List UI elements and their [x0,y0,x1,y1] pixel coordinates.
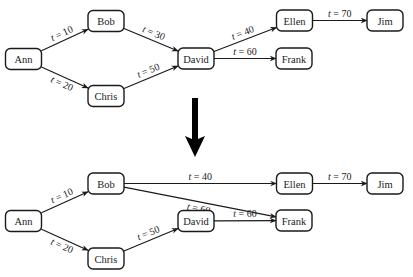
node-frank: Frank [276,210,312,231]
edge-label-bob-david: t = 30 [141,23,167,42]
node-david: David [178,211,214,232]
edge-label-op: = [331,171,342,182]
edge-label-value: 70 [341,8,351,19]
node-label: Ann [14,216,33,227]
edge-label-ann-bob: t = 10 [49,23,75,43]
transform-arrow-group [185,98,205,157]
node-jim: Jim [367,10,403,31]
edge-label-value: 60 [247,208,257,219]
node-david: David [178,48,214,69]
edge-label-ellen-jim: t = 70 [328,8,351,19]
node-label: Chris [95,254,118,265]
edge-label-op: = [236,208,247,219]
edge-label-chris-david: t = 50 [135,61,161,80]
node-bob: Bob [88,11,124,32]
edge-label-op: = [236,46,247,57]
node-label: Frank [282,54,307,65]
node-label: Jim [377,16,392,27]
node-label: Chris [95,91,118,102]
graph-after: t = 10t = 20t = 40t = 60t = 50t = 60t = … [6,171,404,270]
node-label: David [183,216,209,227]
edge-label-ann-chris: t = 20 [49,74,75,94]
edge-label-bob-ellen: t = 40 [189,171,212,182]
edge-label-op: = [191,171,202,182]
node-label: Jim [377,179,392,190]
node-ann: Ann [6,49,42,70]
node-ellen: Ellen [277,10,313,31]
node-label: Ellen [283,179,306,190]
node-label: Ellen [283,16,306,27]
graph-before: t = 10t = 20t = 30t = 50t = 40t = 60t = … [6,8,404,107]
node-label: Ann [14,54,33,65]
node-bob: Bob [88,173,124,194]
node-chris: Chris [88,86,124,107]
node-label: Bob [97,179,115,190]
edge-label-value: 70 [341,171,351,182]
edge-label-david-frank: t = 60 [233,208,256,219]
node-jim: Jim [367,173,403,194]
node-chris: Chris [88,248,124,269]
edge-label-david-ellen: t = 40 [230,23,256,42]
edge-label-chris-david: t = 50 [135,223,161,242]
edge-label-ellen-jim: t = 70 [328,171,351,182]
down-arrow-icon [185,98,205,157]
edge-label-ann-bob: t = 10 [49,186,75,206]
edge-label-david-frank: t = 60 [233,46,256,57]
node-frank: Frank [276,48,312,69]
temporal-graph-diagram: t = 10t = 20t = 30t = 50t = 40t = 60t = … [0,0,413,277]
node-label: Bob [97,16,115,27]
node-label: Frank [282,216,307,227]
node-ellen: Ellen [277,173,313,194]
edge-label-value: 60 [247,46,257,57]
edge-label-op: = [331,8,342,19]
edge-label-value: 40 [202,171,212,182]
edge-label-ann-chris: t = 20 [49,236,75,256]
node-ann: Ann [6,211,42,232]
node-label: David [183,54,209,65]
